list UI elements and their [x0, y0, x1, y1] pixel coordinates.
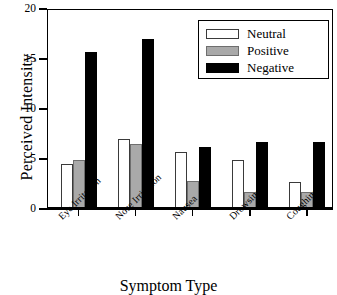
legend-item: Negative: [206, 59, 322, 76]
x-tick-mark: [249, 209, 250, 216]
y-tick-label: 10: [0, 103, 36, 115]
y-tick-label: 5: [0, 153, 36, 165]
chart-legend: Neutral Positive Negative: [198, 20, 329, 79]
y-tick-mark: [39, 58, 47, 59]
y-tick-mark: [39, 108, 47, 109]
bar-negative: [199, 147, 211, 209]
legend-item: Positive: [206, 42, 322, 59]
y-tick-label: 20: [0, 3, 36, 15]
x-tick-mark: [192, 209, 193, 216]
y-tick-mark: [39, 158, 47, 159]
legend-swatch-positive: [206, 46, 239, 56]
x-axis-title: Symptom Type: [0, 277, 337, 295]
legend-label-negative: Negative: [247, 61, 294, 74]
legend-swatch-neutral: [206, 29, 239, 39]
y-tick-mark: [39, 8, 47, 9]
y-tick-mark: [39, 208, 47, 209]
legend-swatch-negative: [206, 63, 239, 73]
legend-label-neutral: Neutral: [247, 27, 286, 40]
x-tick-mark: [306, 209, 307, 216]
bar-negative: [256, 142, 268, 209]
bar-negative: [313, 142, 325, 209]
legend-item: Neutral: [206, 25, 322, 42]
legend-label-positive: Positive: [247, 44, 289, 57]
x-tick-mark: [135, 209, 136, 216]
y-tick-label: 0: [0, 203, 36, 215]
x-tick-mark: [78, 209, 79, 216]
y-tick-label: 15: [0, 53, 36, 65]
